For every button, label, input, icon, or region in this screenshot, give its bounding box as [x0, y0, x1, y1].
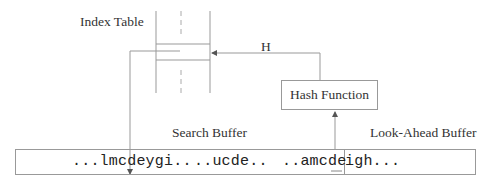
buffer-segment: ...lmcdeygi.. — [72, 154, 192, 169]
look-ahead-buffer-label: Look-Ahead Buffer — [370, 126, 477, 140]
index-table-label: Index Table — [80, 15, 144, 29]
search-buffer-label: Search Buffer — [172, 126, 247, 140]
hash-arrow-label: H — [261, 40, 271, 54]
buffer-segment: ..amcde — [282, 154, 346, 169]
buffer-segment: igh... — [345, 154, 400, 169]
hash-to-index-arrow — [212, 53, 320, 80]
hash-function-label: Hash Function — [290, 88, 369, 102]
buffer-segment: ..ucde.. — [194, 154, 268, 169]
hash-function-box: Hash Function — [281, 80, 378, 110]
